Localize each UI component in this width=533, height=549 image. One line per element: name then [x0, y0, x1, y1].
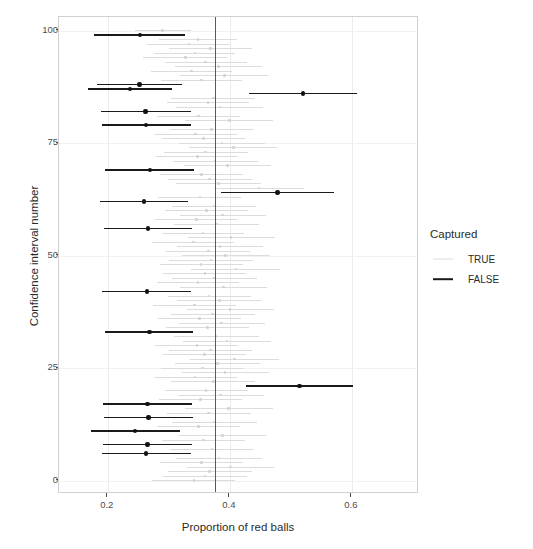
- ci-point: [145, 442, 149, 446]
- ci-point: [226, 340, 229, 343]
- legend: Captured TRUEFALSE: [430, 228, 530, 290]
- ci-point: [199, 398, 202, 401]
- plot-panel: [58, 16, 418, 493]
- ci-point: [204, 272, 207, 275]
- ci-point: [142, 199, 146, 203]
- ci-point: [199, 196, 202, 199]
- y-tick-label: 0: [22, 475, 58, 485]
- y-tick-label: 75: [22, 137, 58, 147]
- ci-point: [217, 65, 220, 68]
- ci-point: [202, 137, 205, 140]
- ci-point: [208, 470, 211, 473]
- legend-item-true[interactable]: TRUE: [430, 250, 530, 268]
- ci-point: [198, 317, 201, 320]
- gridline-y-0: [59, 481, 417, 482]
- ci-point: [218, 299, 221, 302]
- ci-point: [233, 358, 236, 361]
- ci-point: [207, 250, 210, 253]
- ci-point: [202, 232, 205, 235]
- ci-point: [228, 119, 231, 122]
- ci-point: [219, 106, 222, 109]
- legend-rows: TRUEFALSE: [430, 250, 530, 288]
- ci-point: [137, 82, 141, 86]
- ci-point: [197, 115, 200, 118]
- ci-point: [145, 289, 149, 293]
- ci-point: [229, 308, 232, 311]
- x-axis-title: Proportion of red balls: [58, 521, 418, 533]
- y-tick-label: 25: [22, 362, 58, 372]
- ci-point: [128, 87, 132, 91]
- ci-point: [200, 79, 203, 82]
- ci-point: [193, 479, 196, 482]
- ci-point: [193, 304, 196, 307]
- legend-key-icon: [430, 250, 456, 268]
- y-tick-label: 100: [22, 25, 58, 35]
- ci-point: [161, 29, 164, 32]
- ci-point: [207, 101, 210, 104]
- ci-point: [202, 439, 205, 442]
- ci-point: [206, 326, 209, 329]
- ci-point: [222, 286, 225, 289]
- legend-title: Captured: [430, 228, 530, 240]
- legend-key-icon: [430, 270, 456, 288]
- ci-point: [210, 259, 213, 262]
- ci-point: [209, 349, 212, 352]
- x-tick-label: 0.6: [331, 499, 371, 510]
- ci-point: [184, 56, 187, 59]
- ci-point: [190, 70, 193, 73]
- gridline-x-2: [352, 17, 353, 492]
- legend-item-false[interactable]: FALSE: [430, 270, 530, 288]
- ci-point: [220, 322, 223, 325]
- ci-point: [133, 429, 137, 433]
- ci-point: [194, 52, 197, 55]
- ci-point: [196, 155, 199, 158]
- legend-label: TRUE: [456, 254, 495, 265]
- ci-point: [145, 402, 149, 406]
- ci-point: [144, 123, 148, 127]
- ci-point: [223, 74, 226, 77]
- ci-point: [147, 330, 151, 334]
- ci-point: [210, 128, 213, 131]
- x-tick-mark: [106, 493, 107, 497]
- ci-point: [219, 394, 222, 397]
- x-tick-label: 0.4: [209, 499, 249, 510]
- ci-point: [146, 415, 150, 419]
- ci-point: [196, 344, 199, 347]
- x-tick-mark: [228, 493, 229, 497]
- legend-label: FALSE: [456, 274, 499, 285]
- x-tick-label: 0.2: [87, 499, 127, 510]
- ci-point: [138, 33, 142, 37]
- ci-point: [232, 146, 235, 149]
- ci-point: [195, 218, 198, 221]
- ci-point: [194, 376, 197, 379]
- ci-point: [205, 209, 208, 212]
- y-tick-label: 50: [22, 250, 58, 260]
- x-tick-mark: [350, 493, 351, 497]
- ci-point: [192, 241, 195, 244]
- ci-point: [227, 407, 230, 410]
- ci-point: [200, 173, 203, 176]
- ci-point: [143, 109, 147, 113]
- ci-point: [146, 226, 150, 230]
- ci-point: [235, 268, 238, 271]
- ci-point: [297, 384, 301, 388]
- ci-point: [204, 61, 207, 64]
- ci-point: [221, 214, 224, 217]
- ci-point: [218, 457, 221, 460]
- ci-point: [224, 254, 227, 257]
- ci-point: [226, 164, 229, 167]
- chart-root: Confidence interval number Proportion of…: [0, 0, 533, 549]
- ci-point: [200, 461, 203, 464]
- ci-point: [217, 182, 220, 185]
- ci-point: [208, 178, 211, 181]
- ci-point: [209, 47, 212, 50]
- ci-point: [201, 367, 204, 370]
- ci-point: [224, 371, 227, 374]
- ci-point: [148, 168, 152, 172]
- ci-point: [275, 190, 279, 194]
- gridline-y-4: [59, 31, 417, 32]
- ci-point: [216, 362, 219, 365]
- ci-point: [197, 425, 200, 428]
- ci-point: [194, 133, 197, 136]
- reference-line: [215, 17, 217, 492]
